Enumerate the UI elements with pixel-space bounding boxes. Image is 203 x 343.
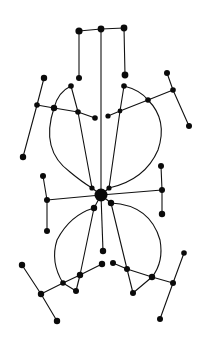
edge-r4-r5 (120, 100, 148, 111)
graph-node (54, 318, 60, 324)
graph-node (164, 70, 170, 76)
graph-node (20, 154, 26, 160)
graph-node (170, 280, 176, 286)
graph-node (121, 83, 127, 89)
graph-node (44, 228, 50, 234)
edge-l4-l5 (54, 108, 78, 112)
graph-node (100, 248, 106, 254)
graph-node (159, 211, 165, 217)
edge-ml1-ml2 (43, 176, 47, 200)
graph-node (76, 75, 82, 81)
edge-bl3-bl5 (41, 283, 63, 294)
edge-r2-r5 (120, 86, 124, 111)
graph-node (159, 187, 165, 193)
graph-node (121, 25, 128, 32)
graph-nodes (19, 25, 192, 325)
graph-edges (22, 28, 189, 321)
edge-c-ml2 (47, 195, 101, 200)
hub-node (95, 189, 108, 202)
graph-node (158, 163, 164, 169)
graph-node (91, 205, 97, 211)
edge-r3-r4 (148, 90, 173, 100)
graph-node (170, 87, 176, 93)
graph-node (130, 290, 136, 296)
edge-l3-l7 (23, 105, 37, 157)
graph-node (34, 102, 40, 108)
graph-node (181, 250, 187, 256)
edge-br2-br5 (127, 269, 133, 293)
edge-l2-l5 (71, 86, 78, 112)
graph-node (122, 72, 129, 79)
edge-c4-br2 (111, 203, 127, 269)
graph-node (44, 197, 50, 203)
curve-l4-c1 (50, 108, 92, 188)
graph-node (108, 200, 114, 206)
graph-node (124, 266, 130, 272)
graph-node (60, 280, 66, 286)
edge-br3-br5 (133, 277, 152, 293)
graph-node (77, 272, 83, 278)
edge-t2-t3 (101, 28, 124, 29)
edge-r5-c2 (109, 111, 120, 188)
curve-r2-r4 (124, 86, 148, 100)
graph-node (89, 185, 94, 190)
edge-c-mr2 (101, 190, 162, 195)
graph-node (106, 185, 111, 190)
edge-br4-br6 (160, 283, 173, 319)
graph-node (41, 75, 47, 81)
graph-node (75, 109, 81, 115)
edge-br3-br4 (152, 277, 173, 283)
graph-node (110, 260, 116, 266)
edge-c3-bl2 (80, 208, 94, 275)
graph-node (99, 261, 105, 267)
graph-node (68, 83, 74, 89)
graph-node (92, 115, 98, 121)
edge-mr1-mr2 (161, 166, 162, 190)
edge-c-b1 (101, 195, 103, 251)
graph-node (105, 113, 110, 118)
graph-node (145, 97, 151, 103)
edge-t3-t5 (124, 28, 125, 75)
graph-node (51, 105, 57, 111)
edge-br1-br4 (173, 253, 184, 283)
edge-b2-bl2 (80, 264, 102, 275)
graph-node (73, 288, 79, 294)
curve-l2-l4 (54, 86, 71, 108)
edge-l5-c1 (78, 112, 92, 188)
graph-node (40, 173, 46, 179)
graph-node (149, 274, 155, 280)
graph-node (75, 27, 82, 34)
curve-r4-c2 (109, 100, 161, 188)
graph-node (157, 316, 163, 322)
graph-node (19, 262, 25, 268)
graph-node (98, 26, 105, 33)
edge-br2-br3 (127, 269, 152, 277)
edge-bl5-bl6 (41, 294, 57, 321)
graph-node (38, 291, 44, 297)
curve-c3-bl3 (55, 208, 94, 283)
edge-l1-l3 (37, 78, 44, 105)
edge-bl1-bl5 (22, 265, 41, 294)
graph-diagram (0, 0, 203, 343)
graph-node (186, 123, 192, 129)
graph-node (118, 109, 123, 114)
edge-r3-r7 (173, 90, 189, 126)
